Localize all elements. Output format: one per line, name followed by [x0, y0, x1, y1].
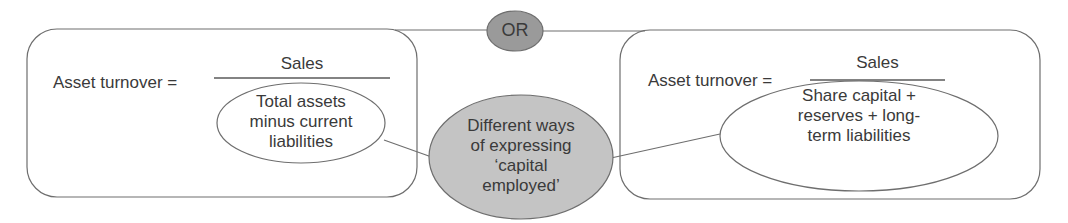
capital-employed-text: Different ways of expressing ‘capital em…	[430, 116, 612, 196]
right-denominator-line: reserves + long-	[720, 106, 998, 126]
right-denominator: Share capital + reserves + long- term li…	[720, 86, 998, 146]
left-denominator-line: minus current	[217, 112, 385, 132]
left-denominator-line: Total assets	[217, 92, 385, 112]
or-label: OR	[487, 20, 543, 40]
left-denominator: Total assets minus current liabilities	[217, 92, 385, 152]
left-asset-turnover-label: Asset turnover =	[53, 73, 177, 93]
center-line: Different ways	[430, 116, 612, 136]
center-line: ‘capital	[430, 156, 612, 176]
left-denominator-line: liabilities	[217, 132, 385, 152]
right-denominator-line: Share capital +	[720, 86, 998, 106]
center-line: of expressing	[430, 136, 612, 156]
right-denominator-line: term liabilities	[720, 126, 998, 146]
left-numerator-sales: Sales	[214, 54, 390, 74]
right-numerator-sales: Sales	[810, 53, 945, 73]
center-line: employed’	[430, 176, 612, 196]
center-to-right-line	[611, 134, 720, 158]
